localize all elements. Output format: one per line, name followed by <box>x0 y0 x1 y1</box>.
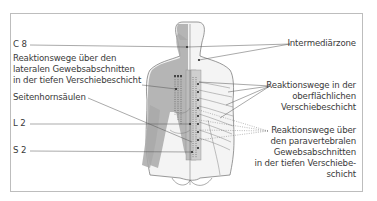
label-s2: S 2 <box>13 146 26 156</box>
label-lateral-line1: Reaktionswege über den <box>13 54 116 64</box>
label-oberflaechlich-line2: oberflächlichen <box>292 92 356 102</box>
label-l2: L 2 <box>13 119 26 129</box>
label-c8: C 8 <box>13 40 27 50</box>
label-paravertebral-line5: schicht <box>326 170 356 180</box>
label-oberflaechlich-line3: Verschiebeschicht <box>281 103 356 113</box>
label-paravertebral-line1: Reaktionswege über <box>271 126 356 136</box>
label-paravertebral-line4: in der tiefen Verschiebe- <box>254 159 356 169</box>
label-paravertebral-line2: den paravertebralen <box>270 137 356 147</box>
label-paravertebral-line3: Gewebsabschnitten <box>274 148 356 158</box>
label-seitenhornsaeulen: Seitenhornsäulen <box>13 93 86 103</box>
label-lateral-line2: lateralen Gewebsabschnitten <box>13 65 135 75</box>
label-oberflaechlich-line1: Reaktionswege in der <box>266 81 356 91</box>
label-lateral-line3: in der tiefen Verschiebeschicht <box>13 76 141 86</box>
label-intermediaerzone: Intermediärzone <box>287 39 356 49</box>
